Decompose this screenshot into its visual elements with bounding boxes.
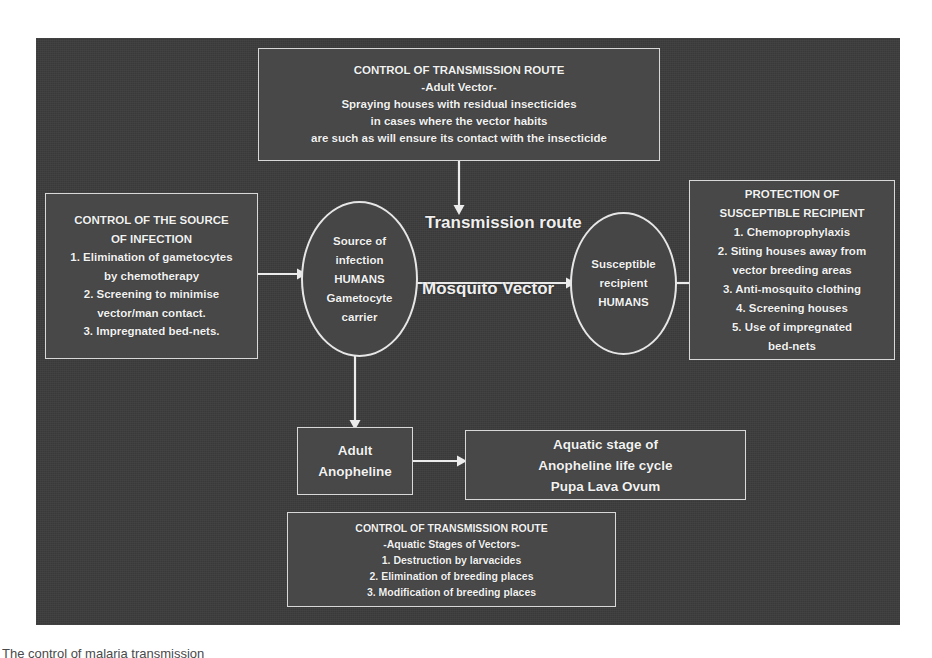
- box-right-line-6: 3. Anti-mosquito clothing: [723, 280, 861, 299]
- box-left-line-2: OF INFECTION: [111, 230, 192, 249]
- ellipse-recipient-line-1: Susceptible: [591, 255, 656, 274]
- box-top-line-4: in cases where the vector habits: [370, 113, 547, 130]
- control-of-transmission-route-adult-vector-box[interactable]: CONTROL OF TRANSMISSION ROUTE -Adult Vec…: [258, 48, 660, 161]
- box-right-line-5: vector breeding areas: [732, 261, 852, 280]
- box-right-line-3: 1. Chemoprophylaxis: [734, 223, 850, 242]
- ellipse-source-line-3: HUMANS: [334, 270, 384, 289]
- box-bottom-line-5: 3. Modification of breeding places: [367, 584, 536, 600]
- susceptible-recipient-humans-ellipse[interactable]: Susceptible recipient HUMANS: [570, 212, 677, 355]
- box-bottom-line-2: -Aquatic Stages of Vectors-: [383, 536, 520, 552]
- box-adult-line-2: Anopheline: [318, 461, 392, 482]
- arrow-top-box-to-transmission: [452, 159, 466, 215]
- box-top-line-5: are such as will ensure its contact with…: [311, 130, 607, 147]
- protection-of-susceptible-recipient-box[interactable]: PROTECTION OF SUSCEPTIBLE RECIPIENT 1. C…: [689, 180, 895, 360]
- box-right-line-8: 5. Use of impregnated: [732, 318, 852, 337]
- arrow-adult-to-aquatic-stage: [413, 454, 467, 468]
- figure-caption: The control of malaria transmission: [2, 646, 702, 658]
- box-right-line-4: 2. Siting houses away from: [718, 242, 866, 261]
- box-right-line-9: bed-nets: [768, 337, 816, 356]
- box-aquatic-line-3: Pupa Lava Ovum: [551, 476, 661, 497]
- transmission-route-label: Transmission route: [425, 213, 582, 233]
- box-bottom-line-1: CONTROL OF TRANSMISSION ROUTE: [355, 520, 547, 536]
- aquatic-stage-of-anopheline-life-cycle-box[interactable]: Aquatic stage of Anopheline life cycle P…: [465, 430, 746, 500]
- box-top-line-2: -Adult Vector-: [421, 79, 496, 96]
- box-bottom-line-3: 1. Destruction by larvacides: [382, 552, 521, 568]
- box-left-line-4: by chemotherapy: [104, 267, 199, 286]
- adult-anopheline-box[interactable]: Adult Anopheline: [297, 427, 413, 495]
- box-left-line-7: 3. Impregnated bed-nets.: [83, 322, 219, 341]
- box-aquatic-line-1: Aquatic stage of: [553, 434, 658, 455]
- ellipse-recipient-line-3: HUMANS: [598, 293, 648, 312]
- arrow-source-to-adult-anopheline: [348, 354, 362, 430]
- box-aquatic-line-2: Anopheline life cycle: [538, 455, 672, 476]
- box-top-line-1: CONTROL OF TRANSMISSION ROUTE: [354, 62, 565, 79]
- arrow-left-box-to-source: [255, 267, 307, 281]
- box-left-line-1: CONTROL OF THE SOURCE: [74, 211, 228, 230]
- ellipse-source-line-1: Source of: [333, 232, 386, 251]
- box-left-line-5: 2. Screening to minimise: [84, 285, 219, 304]
- mosquito-vector-label: Mosquito Vector: [422, 279, 554, 299]
- ellipse-source-line-5: carrier: [342, 308, 378, 327]
- box-right-line-2: SUSCEPTIBLE RECIPIENT: [719, 204, 864, 223]
- box-left-line-6: vector/man contact.: [97, 304, 206, 323]
- ellipse-recipient-line-2: recipient: [600, 274, 648, 293]
- diagram-panel: CONTROL OF TRANSMISSION ROUTE -Adult Vec…: [36, 38, 900, 625]
- box-left-line-3: 1. Elimination of gametocytes: [70, 248, 232, 267]
- ellipse-source-line-4: Gametocyte: [327, 289, 393, 308]
- box-right-line-7: 4. Screening houses: [736, 299, 848, 318]
- box-adult-line-1: Adult: [338, 440, 373, 461]
- ellipse-source-line-2: infection: [336, 251, 384, 270]
- box-right-line-1: PROTECTION OF: [745, 185, 840, 204]
- control-of-transmission-route-aquatic-stages-box[interactable]: CONTROL OF TRANSMISSION ROUTE -Aquatic S…: [287, 512, 616, 607]
- control-of-the-source-of-infection-box[interactable]: CONTROL OF THE SOURCE OF INFECTION 1. El…: [45, 193, 258, 359]
- box-top-line-3: Spraying houses with residual insecticid…: [341, 96, 576, 113]
- source-of-infection-humans-ellipse[interactable]: Source of infection HUMANS Gametocyte ca…: [301, 201, 418, 357]
- box-bottom-line-4: 2. Elimination of breeding places: [370, 568, 534, 584]
